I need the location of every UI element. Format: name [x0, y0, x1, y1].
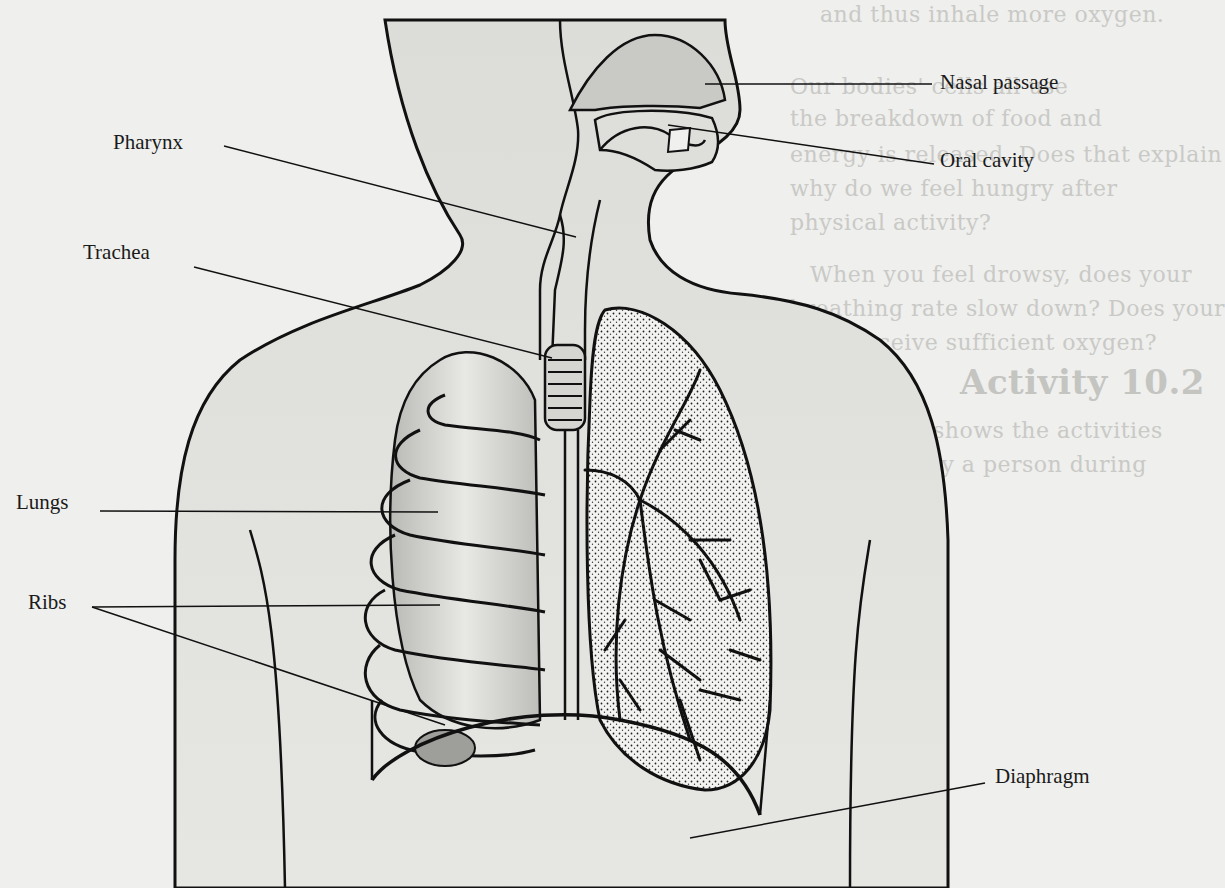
label-nasal-passage: Nasal passage — [940, 70, 1058, 95]
body-outline — [175, 20, 948, 888]
label-oral-cavity: Oral cavity — [940, 148, 1034, 173]
leader-lungs — [100, 511, 438, 512]
left-lung-shape — [390, 352, 540, 728]
label-ribs: Ribs — [28, 590, 67, 615]
label-pharynx: Pharynx — [113, 130, 183, 155]
label-lungs: Lungs — [16, 490, 69, 515]
teeth-shape — [668, 128, 690, 152]
label-trachea: Trachea — [83, 240, 150, 265]
label-diaphragm: Diaphragm — [995, 764, 1089, 789]
